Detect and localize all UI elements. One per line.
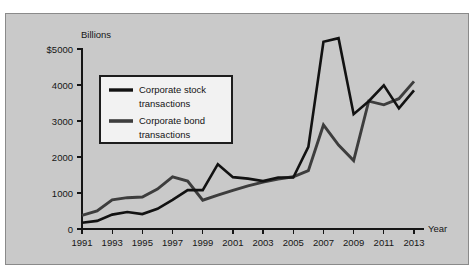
line-chart: Billions Year 01000200030004000$5000 199… [6,14,470,266]
legend-label-corporate-bond-line2: transactions [139,129,190,140]
y-axis-title: Billions [81,29,111,40]
x-tick-label: 2001 [222,237,243,248]
x-tick-label: 2009 [343,237,364,248]
x-tick-label: 2007 [313,237,334,248]
page-corner-mark [2,1,8,9]
x-tick-label: 1991 [71,237,92,248]
y-tick-label: 2000 [52,152,73,163]
legend-label-corporate-stock-line1: Corporate stock [139,84,206,95]
legend-label-corporate-bond-line1: Corporate bond [139,115,205,126]
x-tick-label: 1995 [132,237,153,248]
y-tick-label: 0 [68,224,73,235]
y-tick-label: $5000 [47,44,73,55]
x-tick-label: 1997 [162,237,183,248]
x-tick-label: 2005 [283,237,304,248]
x-axis-ticks: 1991199319951997199920012003200520072009… [71,229,424,248]
legend-label-corporate-stock-line2: transactions [139,98,190,109]
x-axis-title: Year [428,223,447,234]
x-tick-label: 2013 [403,237,424,248]
y-tick-label: 3000 [52,116,73,127]
x-tick-label: 2003 [253,237,274,248]
x-tick-label: 1993 [102,237,123,248]
y-tick-label: 1000 [52,188,73,199]
chart-legend: Corporate stock transactions Corporate b… [100,76,232,143]
y-axis-ticks: 01000200030004000$5000 [47,44,82,235]
y-tick-label: 4000 [52,80,73,91]
chart-figure: Billions Year 01000200030004000$5000 199… [5,13,469,265]
x-tick-label: 1999 [192,237,213,248]
x-tick-label: 2011 [374,237,394,248]
